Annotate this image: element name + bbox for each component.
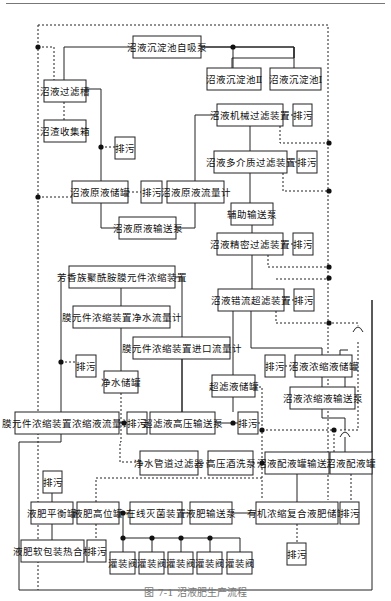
node-label: 辅助输送泵 (227, 209, 277, 220)
process-node-n29: 膜元件浓缩装置浓缩液流量计 (2, 412, 132, 434)
dashed-connector (96, 478, 262, 502)
dashed-connector (280, 126, 329, 143)
node-label: 沼液沉淀池Ⅰ (269, 74, 323, 85)
process-node-n37: 排污 (43, 471, 63, 493)
node-label: 有机浓缩复合液肥储罐 (247, 508, 347, 519)
process-node-n41: 液肥输送泵 (186, 502, 236, 524)
dashed-connector (262, 340, 358, 430)
node-label: 沼液原液储罐 (70, 187, 130, 198)
junction-dot (35, 44, 40, 49)
process-node-n5: 沼渣收集箱 (40, 120, 90, 142)
process-node-n36: 沼液配液罐 (326, 452, 376, 474)
node-label: 排污 (238, 418, 258, 429)
node-label: 超滤液高压输送泵 (143, 418, 223, 429)
dashed-connector (276, 311, 358, 332)
process-node-n9: 沼液多介质过滤装置 (206, 151, 296, 173)
node-label: 沼液配液罐 (326, 458, 376, 469)
node-label: 排污 (43, 477, 63, 488)
node-label: 沼液机械过滤装置 (210, 110, 290, 121)
node-label: 灌装阀 (166, 558, 196, 569)
node-label: 排污 (340, 508, 360, 519)
process-node-n39: 液肥高位罐 (73, 502, 123, 524)
process-nodes: 沼液沉淀池自吸泵沼液沉淀池Ⅱ沼液沉淀池Ⅰ沼液过滤槽沼渣收集箱沼液机械过滤装置排污… (2, 36, 376, 574)
process-node-n14: 辅助输送泵 (227, 203, 277, 225)
process-node-n50: 灌装阀 (195, 552, 225, 574)
junction-dot (120, 535, 125, 540)
process-node-n16: 沼液精密过滤装置 (210, 233, 290, 255)
process-node-n21: 膜元件浓缩装置净水流量计 (62, 306, 182, 328)
junction-dot (98, 144, 103, 149)
process-node-n3: 沼液沉淀池Ⅰ (269, 68, 323, 90)
node-label: 沼液沉淀池自吸泵 (127, 42, 207, 53)
node-label: 灌装阀 (225, 558, 255, 569)
process-node-n19: 沼液错流超滤装置 (211, 289, 291, 311)
figure-caption: 图 7-1 沼液肥生产流程 (0, 584, 391, 599)
dashed-connector (38, 47, 54, 80)
process-node-n43: 排污 (340, 502, 360, 524)
process-node-n34: 高压酒洗泵 (206, 451, 256, 475)
junction-dot (259, 460, 264, 465)
junction-dot (121, 420, 126, 425)
process-node-n12: 排污 (141, 181, 162, 203)
node-label: 排污 (294, 295, 314, 306)
junction-dot (35, 194, 40, 199)
node-label: 灌装阀 (108, 558, 138, 569)
process-node-n23: 排污 (76, 355, 96, 377)
junction-dot (230, 420, 235, 425)
junction-dot (259, 427, 264, 432)
process-node-n8: 排污 (115, 137, 135, 159)
process-node-n38: 液肥平衡罐 (27, 502, 77, 524)
process-node-n51: 灌装阀 (225, 552, 255, 574)
process-node-n40: 在线灭菌装置 (126, 502, 186, 524)
process-node-n35: 沼液配液罐输送泵 (257, 452, 337, 474)
node-label: 高压酒洗泵 (206, 458, 256, 469)
process-node-n25: 沼液浓缩液储罐 (289, 355, 359, 377)
solid-connector (201, 47, 294, 68)
node-label: 净水储罐 (101, 377, 141, 388)
process-node-n18: 芳香族聚酰胺膜元件浓缩装置 (57, 266, 187, 288)
junction-dot (326, 275, 331, 280)
process-node-n48: 灌装阀 (137, 552, 167, 574)
node-label: 膜元件浓缩装置净水流量计 (62, 312, 182, 323)
junction-dot (326, 140, 331, 145)
process-node-n13: 沼液原液流量计 (161, 181, 231, 203)
solid-connector (64, 47, 133, 80)
process-node-n42: 有机浓缩复合液肥储罐 (247, 502, 347, 524)
process-node-n10: 排污 (297, 151, 317, 173)
node-label: 沼液原液输送泵 (113, 223, 183, 234)
process-node-n17: 排污 (293, 233, 313, 255)
junction-dot (326, 264, 331, 269)
solid-connector (251, 311, 322, 355)
junction-dot (207, 535, 212, 540)
process-node-n44: 液肥软包装热合机 (13, 540, 93, 562)
node-label: 液肥平衡罐 (27, 508, 77, 519)
junction-dot (230, 44, 235, 49)
process-node-n49: 灌装阀 (166, 552, 196, 574)
process-flow-diagram: 沼液沉淀池自吸泵沼液沉淀池Ⅱ沼液沉淀池Ⅰ沼液过滤槽沼渣收集箱沼液机械过滤装置排污… (0, 0, 391, 601)
process-node-n2: 沼液沉淀池Ⅱ (206, 68, 262, 90)
node-label: 排污 (297, 157, 317, 168)
process-node-n20: 排污 (294, 289, 314, 311)
process-node-n46: 排污 (287, 543, 307, 565)
node-label: 沼液精密过滤装置 (210, 239, 290, 250)
node-label: 沼液浓缩液输送泵 (283, 393, 363, 404)
node-label: 液肥软包装热合机 (13, 546, 93, 557)
junction-dot (326, 320, 331, 325)
node-label: 液肥高位罐 (73, 508, 123, 519)
node-label: 在线灭菌装置 (126, 508, 186, 519)
junction-dot (149, 535, 154, 540)
node-label: 净水管道过滤器 (134, 458, 204, 469)
junction-dot (178, 535, 183, 540)
node-label: 沼渣收集箱 (40, 126, 90, 137)
node-label: 沼液错流超滤装置 (211, 295, 291, 306)
node-label: 排污 (265, 361, 285, 372)
node-label: 排污 (293, 239, 313, 250)
process-node-n47: 灌装阀 (108, 552, 138, 574)
node-label: 排污 (142, 187, 162, 198)
process-node-n33: 净水管道过滤器 (134, 451, 204, 475)
node-label: 沼液浓缩液储罐 (289, 361, 359, 372)
junction-dot (326, 188, 331, 193)
node-label: 灌装阀 (137, 558, 167, 569)
process-node-n22: 膜元件浓缩装置进口流量计 (122, 337, 242, 359)
junction-dot (331, 427, 336, 432)
